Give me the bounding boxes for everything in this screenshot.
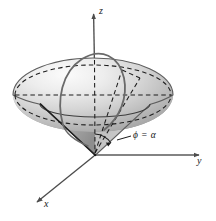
spherical-coordinates-figure: z y x ϕ = α [0,0,216,221]
x-axis-line [37,156,94,202]
y-axis-label: y [197,156,201,166]
phi-label-leader [117,136,131,140]
phi-equals-alpha-label: ϕ = α [133,131,156,141]
figure-canvas [0,0,216,221]
z-axis-label: z [99,6,103,16]
x-axis-label: x [44,199,48,209]
origin-point [94,154,97,157]
